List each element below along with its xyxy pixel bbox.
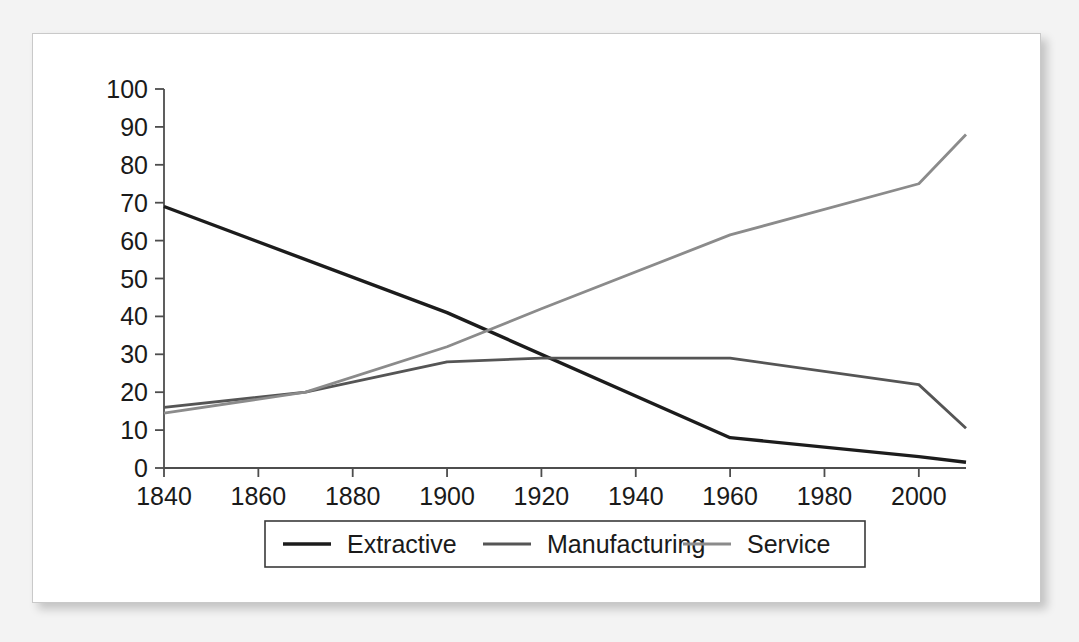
x-tick-label: 1860 (231, 482, 287, 510)
legend-label-extractive: Extractive (347, 530, 457, 558)
y-tick-label: 30 (120, 340, 148, 368)
y-tick-label: 100 (106, 75, 148, 103)
series-line-service (164, 134, 966, 413)
x-tick-label: 1960 (702, 482, 758, 510)
x-tick-label: 2000 (891, 482, 947, 510)
y-axis-ticks: 0102030405060708090100 (106, 75, 164, 482)
x-tick-label: 1840 (136, 482, 192, 510)
series-line-extractive (164, 206, 966, 462)
y-tick-label: 10 (120, 416, 148, 444)
series-line-manufacturing (164, 358, 966, 428)
legend-label-service: Service (747, 530, 830, 558)
y-tick-label: 40 (120, 302, 148, 330)
x-tick-label: 1920 (514, 482, 570, 510)
x-tick-label: 1940 (608, 482, 664, 510)
figure-root: 0102030405060708090100 18401860188019001… (0, 0, 1079, 642)
y-tick-label: 50 (120, 265, 148, 293)
y-tick-label: 20 (120, 378, 148, 406)
x-tick-label: 1980 (797, 482, 853, 510)
chart-legend: ExtractiveManufacturingService (265, 521, 865, 567)
y-tick-label: 0 (134, 454, 148, 482)
x-axis-ticks: 184018601880190019201940196019802000 (136, 468, 946, 510)
line-chart: 0102030405060708090100 18401860188019001… (33, 34, 1042, 604)
x-tick-label: 1880 (325, 482, 381, 510)
chart-panel: 0102030405060708090100 18401860188019001… (32, 33, 1041, 603)
series-lines (164, 134, 966, 462)
y-tick-label: 90 (120, 113, 148, 141)
y-tick-label: 80 (120, 151, 148, 179)
legend-label-manufacturing: Manufacturing (547, 530, 705, 558)
y-tick-label: 70 (120, 189, 148, 217)
x-tick-label: 1900 (419, 482, 475, 510)
y-tick-label: 60 (120, 227, 148, 255)
